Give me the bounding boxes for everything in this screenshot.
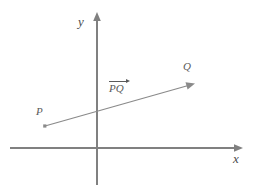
overbar-arrow-tip [126, 79, 130, 83]
vector-pq-arrowhead-icon [186, 82, 196, 89]
point-q-label: Q [183, 61, 191, 72]
point-p-marker [43, 124, 46, 127]
diagram-canvas [0, 0, 254, 191]
vector-pq-label: PQ [109, 79, 124, 94]
y-axis-arrowhead-icon [93, 12, 101, 21]
y-axis [93, 12, 101, 185]
x-axis [10, 144, 243, 152]
x-axis-label: x [233, 152, 239, 165]
point-p-label: P [36, 106, 43, 117]
vector-pq-label-text: PQ [109, 83, 124, 94]
vector-arrow-overbar-icon [109, 79, 124, 84]
y-axis-label: y [78, 15, 84, 28]
vector-diagram-figure: y x P Q PQ [0, 0, 254, 191]
